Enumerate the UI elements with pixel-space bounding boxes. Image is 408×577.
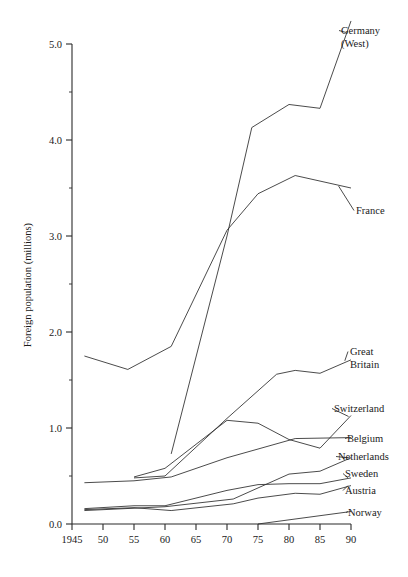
x-tick-label: 50	[98, 534, 109, 545]
series-label-germany-west: Germany	[341, 25, 381, 36]
x-tick-label: 90	[346, 534, 357, 545]
series-line-switzerland	[134, 416, 351, 477]
series-label-norway: Norway	[348, 507, 383, 518]
series-line-netherlands	[84, 458, 351, 511]
series-line-sweden	[84, 478, 351, 509]
series-label-france: France	[356, 205, 385, 216]
series-labels: Germany(West)FranceGreatBritainSwitzerla…	[334, 25, 389, 518]
series-label-switzerland: Switzerland	[334, 403, 385, 414]
series-line-germany-west	[171, 21, 351, 454]
series-label-netherlands: Netherlands	[338, 451, 389, 462]
series-label-belgium: Belgium	[347, 433, 383, 444]
series-label-great-britain: Great	[350, 346, 373, 357]
x-tick-label: 75	[253, 534, 264, 545]
x-tick-label: 85	[315, 534, 326, 545]
leader-line-france	[339, 186, 354, 210]
series-label-great-britain-line2: Britain	[350, 359, 380, 370]
x-tick-label: 80	[284, 534, 295, 545]
series-lines	[84, 21, 351, 524]
y-axis-title: Foreign population (millions)	[22, 222, 34, 347]
series-line-norway	[258, 512, 351, 524]
y-tick-label: 2.0	[49, 327, 62, 338]
series-line-great-britain	[134, 360, 351, 478]
series-line-austria	[84, 486, 351, 511]
chart-container: 0.01.02.03.04.05.0 194550556065707580859…	[0, 0, 408, 577]
x-axis-tick-labels: 1945505560657075808590	[62, 534, 357, 545]
series-label-germany-west-line2: (West)	[341, 38, 369, 50]
line-chart: 0.01.02.03.04.05.0 194550556065707580859…	[0, 0, 408, 577]
series-line-belgium	[84, 438, 351, 483]
x-tick-label: 70	[222, 534, 233, 545]
y-tick-label: 0.0	[49, 519, 62, 530]
x-tick-label: 1945	[62, 534, 83, 545]
y-axis-ticks	[66, 44, 72, 524]
y-tick-label: 1.0	[49, 423, 62, 434]
series-label-sweden: Sweden	[345, 468, 379, 479]
x-tick-label: 65	[191, 534, 202, 545]
y-tick-label: 4.0	[49, 135, 62, 146]
x-tick-label: 55	[129, 534, 140, 545]
y-tick-label: 5.0	[49, 39, 62, 50]
y-axis-tick-labels: 0.01.02.03.04.05.0	[49, 39, 62, 530]
leader-line-great-britain	[345, 352, 348, 361]
x-axis-ticks	[72, 524, 351, 530]
series-label-austria: Austria	[345, 485, 376, 496]
x-tick-label: 60	[160, 534, 171, 545]
y-tick-label: 3.0	[49, 231, 62, 242]
